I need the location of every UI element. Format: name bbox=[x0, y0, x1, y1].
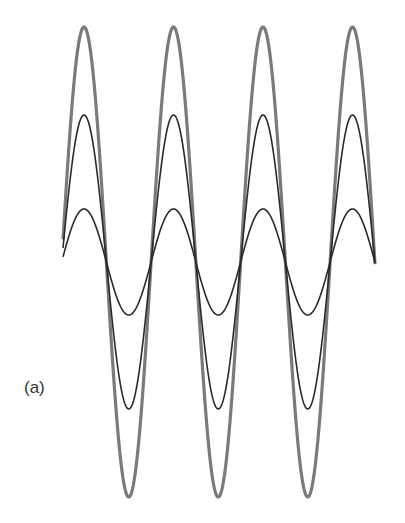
waveform-group bbox=[63, 27, 375, 497]
waveform-figure bbox=[0, 0, 405, 523]
waveform-large-amplitude bbox=[63, 27, 375, 497]
panel-label: (a) bbox=[24, 378, 45, 398]
waveform-medium-amplitude bbox=[63, 115, 375, 409]
